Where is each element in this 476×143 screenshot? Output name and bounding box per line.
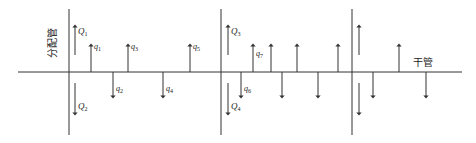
trunk-pipe-label: 干管 [413,56,433,68]
distribution-down-flow-label: Q2 [78,101,88,112]
flow-labels: Q1Q2Q3Q4q1q2q3q4q5q6q7 [78,26,263,112]
pipe-flow-diagram: 分配管 干管 Q1Q2Q3Q4q1q2q3q4q5q6q7 [0,0,476,143]
branch-flow-label: q4 [166,84,173,94]
distribution-up-flow-label: Q1 [78,26,88,37]
distribution-down-flow-label: Q4 [231,101,241,112]
distribution-pipe-label: 分配管 [46,28,58,58]
branch-flow-label: q6 [244,84,251,94]
branch-flow-label: q1 [94,42,101,52]
branch-flow-label: q7 [256,49,263,59]
branch-flow-label: q3 [131,42,138,52]
branch-flow-label: q2 [116,84,123,94]
branch-flow-label: q5 [193,42,200,52]
flow-arrows [75,26,426,114]
distribution-up-flow-label: Q3 [231,26,241,37]
